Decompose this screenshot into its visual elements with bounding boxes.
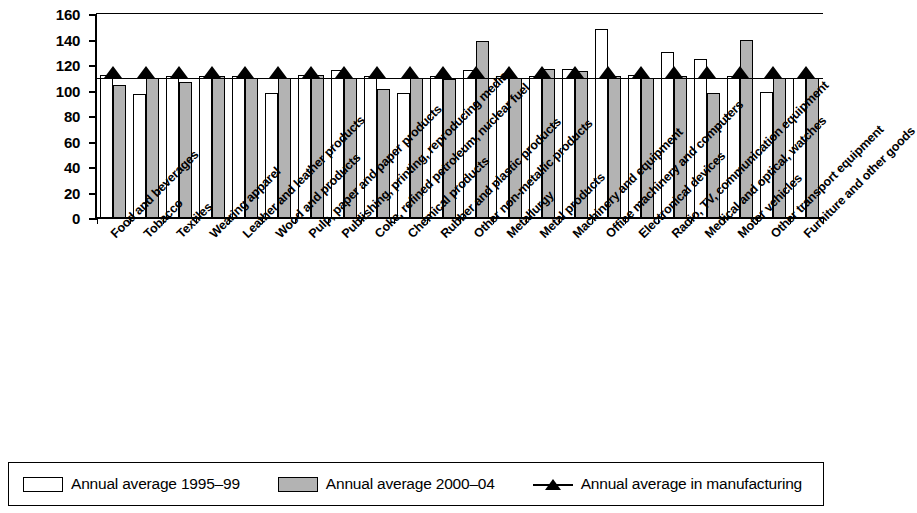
manufacturing-average-marker — [632, 66, 650, 78]
manufacturing-average-marker — [269, 66, 287, 78]
y-tick-label: 20 — [46, 184, 80, 201]
manufacturing-average-marker — [797, 66, 815, 78]
manufacturing-average-marker — [566, 66, 584, 78]
manufacturing-average-line — [97, 78, 823, 80]
y-tick-mark — [89, 14, 97, 16]
y-tick-mark — [89, 218, 97, 220]
y-tick-label: 40 — [46, 159, 80, 176]
x-tick-mark — [97, 217, 98, 224]
bar-1995-99 — [100, 75, 113, 218]
manufacturing-average-marker — [665, 66, 683, 78]
manufacturing-average-marker — [533, 66, 551, 78]
manufacturing-average-marker — [104, 66, 122, 78]
y-tick-mark — [89, 193, 97, 195]
y-tick-label: 80 — [46, 108, 80, 125]
y-tick-mark — [89, 142, 97, 144]
triangle-marker-swatch-icon — [533, 477, 573, 492]
manufacturing-average-marker — [302, 66, 320, 78]
manufacturing-average-marker — [335, 66, 353, 78]
y-tick-label: 120 — [46, 57, 80, 74]
manufacturing-average-marker — [236, 66, 254, 78]
bar-1995-99 — [199, 76, 212, 218]
manufacturing-average-marker — [599, 66, 617, 78]
y-tick-mark — [89, 65, 97, 67]
manufacturing-average-marker — [698, 66, 716, 78]
legend-label-manufacturing: Annual average in manufacturing — [581, 475, 802, 493]
y-tick-mark — [89, 91, 97, 93]
y-tick-mark — [89, 40, 97, 42]
manufacturing-average-marker — [764, 66, 782, 78]
bar-group — [97, 14, 130, 218]
bar-2000-04 — [212, 76, 225, 218]
legend-label-2000-04: Annual average 2000–04 — [326, 475, 495, 493]
manufacturing-average-marker — [137, 66, 155, 78]
y-tick-label: 160 — [46, 6, 80, 23]
legend-item-2000-04: Annual average 2000–04 — [278, 475, 495, 493]
y-tick-mark — [89, 167, 97, 169]
bar-group — [196, 14, 229, 218]
bar-2000-04 — [113, 85, 126, 218]
manufacturing-average-marker — [170, 66, 188, 78]
y-tick-label: 0 — [46, 210, 80, 227]
gray-bar-swatch-icon — [278, 477, 318, 492]
manufacturing-average-marker — [401, 66, 419, 78]
y-tick-label: 140 — [46, 31, 80, 48]
legend-label-1995-99: Annual average 1995–99 — [71, 475, 240, 493]
y-tick-label: 100 — [46, 82, 80, 99]
x-axis-category-labels: Food and beveragesTobaccoTextilesWearing… — [0, 225, 832, 410]
manufacturing-average-marker — [731, 66, 749, 78]
legend-item-manufacturing: Annual average in manufacturing — [533, 475, 802, 493]
y-tick-mark — [89, 116, 97, 118]
manufacturing-average-marker — [467, 66, 485, 78]
y-axis-tick-labels: 020406080100120140160 — [46, 0, 80, 232]
white-bar-swatch-icon — [23, 477, 63, 492]
manufacturing-average-marker — [203, 66, 221, 78]
manufacturing-average-marker — [368, 66, 386, 78]
legend-items: Annual average 1995–99 Annual average 20… — [9, 463, 823, 505]
y-tick-label: 60 — [46, 133, 80, 150]
legend: Annual average 1995–99 Annual average 20… — [8, 462, 824, 506]
manufacturing-average-marker — [434, 66, 452, 78]
legend-item-1995-99: Annual average 1995–99 — [23, 475, 240, 493]
